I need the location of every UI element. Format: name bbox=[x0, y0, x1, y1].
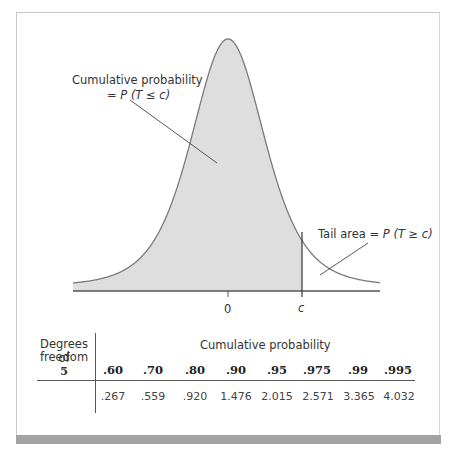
tick-label-c: c bbox=[298, 301, 304, 315]
cumulative-label-line1: Cumulative probability bbox=[72, 73, 203, 87]
col-header: .70 bbox=[133, 363, 173, 377]
tail-leader-line bbox=[320, 243, 368, 275]
table-cell: 2.571 bbox=[297, 390, 339, 403]
tail-area-formula: P (T ≥ c) bbox=[383, 227, 433, 241]
tail-area-prefix: Tail area = bbox=[318, 227, 383, 241]
col-header: .95 bbox=[257, 363, 297, 377]
tail-area-label: Tail area = P (T ≥ c) bbox=[318, 227, 433, 241]
t-distribution-plot bbox=[0, 0, 449, 452]
row-header-freedom: freedom bbox=[36, 350, 92, 364]
table-cell: 1.476 bbox=[215, 390, 257, 403]
cumulative-label-line2: = P (T ≤ c) bbox=[107, 88, 170, 102]
table-cell: .920 bbox=[174, 390, 216, 403]
column-group-label: Cumulative probability bbox=[200, 338, 331, 352]
table-cell: .559 bbox=[132, 390, 174, 403]
table-cell: .267 bbox=[92, 390, 134, 403]
col-header: .995 bbox=[378, 363, 418, 377]
table-cell: 2.015 bbox=[256, 390, 298, 403]
table-cell: 4.032 bbox=[378, 390, 420, 403]
col-header: .975 bbox=[297, 363, 337, 377]
table-horizontal-rule bbox=[37, 380, 415, 381]
table-cell: 3.365 bbox=[338, 390, 380, 403]
df-value: 5 bbox=[36, 364, 92, 378]
col-header: .90 bbox=[216, 363, 256, 377]
col-header: .99 bbox=[338, 363, 378, 377]
col-header: .80 bbox=[175, 363, 215, 377]
cumulative-formula: P (T ≤ c) bbox=[120, 88, 170, 102]
tick-label-zero: 0 bbox=[224, 302, 231, 316]
equals-sign: = bbox=[107, 88, 120, 102]
col-header: .60 bbox=[93, 363, 133, 377]
